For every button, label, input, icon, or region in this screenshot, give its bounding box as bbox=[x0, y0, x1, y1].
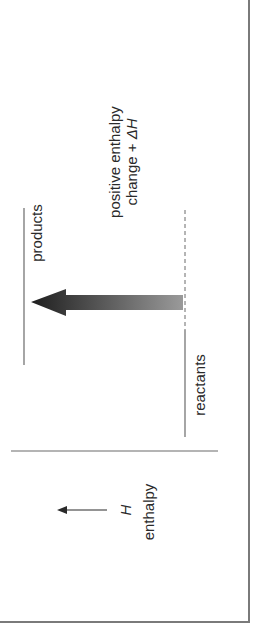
enthalpy-change-label: positive enthalpy change + ΔH bbox=[106, 106, 141, 218]
enthalpy-change-line2: change + ΔH bbox=[123, 106, 140, 218]
reactants-label: reactants bbox=[191, 354, 208, 416]
delta-h-symbol: ΔH bbox=[123, 118, 140, 139]
enthalpy-change-arrow bbox=[31, 289, 183, 316]
enthalpy-change-prefix: change + bbox=[123, 139, 140, 205]
products-label: products bbox=[28, 204, 45, 262]
enthalpy-change-line1: positive enthalpy bbox=[106, 106, 123, 218]
enthalpy-axis-label: enthalpy bbox=[140, 484, 157, 541]
enthalpy-diagram bbox=[0, 0, 254, 628]
enthalpy-axis-arrow-head bbox=[57, 506, 67, 514]
enthalpy-symbol: H bbox=[117, 505, 134, 516]
